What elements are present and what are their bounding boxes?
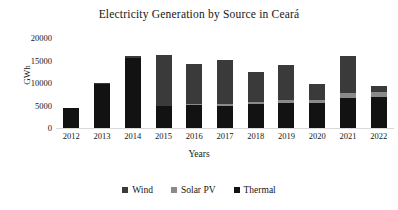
bar-segment-wind (278, 65, 294, 100)
plot-area (56, 36, 394, 128)
legend-item[interactable]: Thermal (234, 185, 276, 195)
bar-segment-thermal (371, 97, 387, 128)
y-tick-label: 5000 (0, 101, 52, 111)
x-tick-label: 2012 (56, 131, 86, 141)
bar-segment-thermal (217, 106, 233, 129)
y-tick-label: 15000 (0, 56, 52, 66)
chart-title: Electricity Generation by Source in Cear… (0, 8, 398, 20)
x-tick-label: 2018 (241, 131, 271, 141)
bar-column (156, 55, 172, 128)
bar-column (340, 56, 356, 128)
bar-segment-thermal (278, 103, 294, 128)
bar-segment-thermal (186, 105, 202, 128)
bar-column (186, 64, 202, 128)
bar-segment-thermal (63, 108, 79, 128)
x-tick-label: 2017 (210, 131, 240, 141)
bar-column (278, 65, 294, 128)
legend-item[interactable]: Solar PV (171, 185, 216, 195)
x-axis-line (56, 128, 394, 129)
bar-segment-thermal (125, 58, 141, 128)
bar-column (94, 83, 110, 128)
bar-segment-wind (217, 60, 233, 104)
legend-item-label: Solar PV (181, 185, 216, 195)
y-tick-label: 20000 (0, 33, 52, 43)
legend-item[interactable]: Wind (122, 185, 153, 195)
y-tick-label: 10000 (0, 78, 52, 88)
legend-swatch-solar-icon (171, 187, 177, 193)
chart-legend: WindSolar PVThermal (0, 185, 398, 195)
bar-segment-wind (248, 72, 264, 102)
x-tick-label: 2020 (302, 131, 332, 141)
bar-column (125, 56, 141, 128)
bar-segment-thermal (309, 103, 325, 128)
bar-column (248, 72, 264, 128)
bar-segment-thermal (340, 98, 356, 128)
y-tick-label: 0 (0, 123, 52, 133)
bar-column (309, 84, 325, 128)
bar-segment-thermal (156, 106, 172, 128)
y-axis-tick-labels: 05000100001500020000 (0, 0, 52, 210)
chart-figure: Electricity Generation by Source in Cear… (0, 0, 398, 210)
x-tick-label: 2022 (364, 131, 394, 141)
bar-column (217, 60, 233, 128)
x-tick-label: 2016 (179, 131, 209, 141)
x-axis-tick-labels: 2012201320142015201620172018201920202021… (56, 131, 394, 147)
legend-item-label: Wind (132, 185, 153, 195)
x-tick-label: 2013 (87, 131, 117, 141)
bar-column (63, 108, 79, 128)
legend-swatch-wind-icon (122, 187, 128, 193)
x-tick-label: 2019 (271, 131, 301, 141)
legend-swatch-thermal-icon (234, 187, 240, 193)
legend-item-label: Thermal (244, 185, 276, 195)
x-tick-label: 2015 (149, 131, 179, 141)
bar-segment-thermal (248, 104, 264, 128)
bar-segment-wind (309, 84, 325, 100)
bar-segment-thermal (94, 84, 110, 128)
bar-segment-wind (340, 56, 356, 93)
x-axis-label: Years (0, 149, 398, 159)
bar-segment-wind (156, 55, 172, 106)
bar-segment-wind (186, 64, 202, 104)
x-tick-label: 2021 (333, 131, 363, 141)
bar-column (371, 86, 387, 128)
x-tick-label: 2014 (118, 131, 148, 141)
